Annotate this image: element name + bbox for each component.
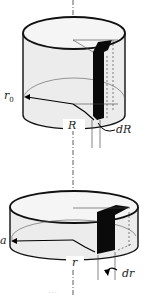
label-a: a — [0, 235, 7, 246]
label-r: r — [72, 257, 77, 268]
label-R: R — [68, 120, 76, 131]
label-dr: dr — [122, 268, 134, 279]
label-dR: dR — [116, 124, 131, 135]
diagram-canvas — [0, 0, 156, 296]
figure-caption: ... — [48, 287, 58, 295]
label-r0: r0 — [4, 90, 14, 104]
